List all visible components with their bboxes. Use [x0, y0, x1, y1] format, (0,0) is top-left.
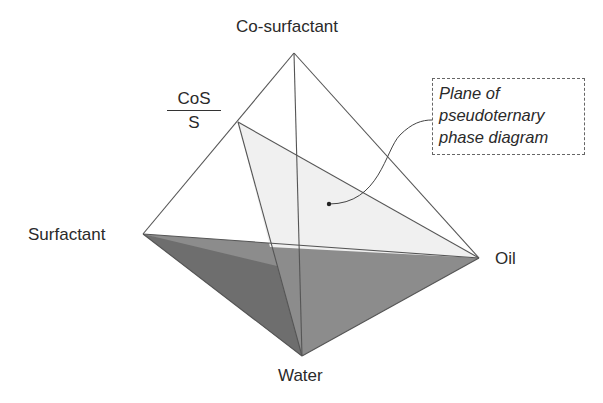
callout-line-1: Plane of: [439, 82, 578, 104]
tetrahedron-diagram: [0, 0, 603, 403]
vertex-label-surfactant: Surfactant: [28, 225, 106, 245]
ratio-denominator: S: [167, 113, 221, 133]
ratio-fraction-bar: [167, 110, 221, 111]
callout-line-2: pseudoternary: [439, 104, 578, 126]
ratio-numerator: CoS: [167, 89, 221, 109]
vertex-label-water: Water: [278, 366, 323, 386]
vertex-label-cosurfactant: Co-surfactant: [236, 17, 338, 37]
vertex-label-oil: Oil: [495, 249, 516, 269]
plane-callout-box: Plane of pseudoternary phase diagram: [432, 78, 585, 155]
callout-line-3: phase diagram: [439, 126, 578, 148]
plane-marker-dot: [327, 202, 331, 206]
cos-s-ratio-label: CoS S: [167, 89, 221, 133]
